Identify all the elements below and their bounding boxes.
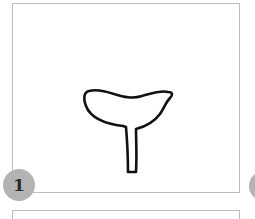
mushroom-outline-icon (80, 84, 180, 176)
step-number-badge-next (249, 171, 255, 201)
step-number-badge: 1 (3, 169, 35, 201)
step-number: 1 (13, 177, 25, 194)
panel-frame-2 (12, 210, 240, 219)
